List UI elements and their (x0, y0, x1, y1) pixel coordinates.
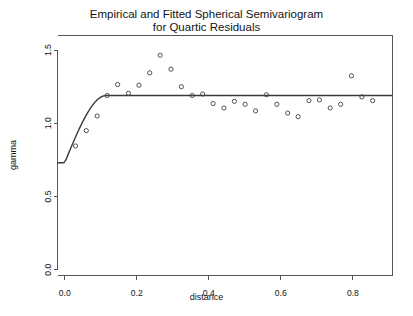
chart-title-line-2: for Quartic Residuals (153, 21, 261, 33)
y-tick-label: 1.0 (43, 117, 53, 129)
x-tick-label: 0.2 (131, 288, 143, 298)
chart-title-line-1: Empirical and Fitted Spherical Semivario… (90, 8, 323, 20)
y-tick-label: 1.5 (43, 44, 53, 56)
y-tick-label: 0.0 (43, 263, 53, 275)
x-tick-label: 0.8 (347, 288, 359, 298)
y-tick-label: 0.5 (43, 190, 53, 202)
semivariogram-figure: Empirical and Fitted Spherical Semivario… (0, 0, 413, 316)
chart-canvas: Empirical and Fitted Spherical Semivario… (0, 0, 413, 316)
figure-background (0, 0, 413, 316)
x-tick-label: 0.0 (59, 288, 71, 298)
y-axis-label: gamma (8, 140, 18, 170)
x-tick-label: 0.6 (275, 288, 287, 298)
x-axis-label: distance (190, 292, 224, 302)
